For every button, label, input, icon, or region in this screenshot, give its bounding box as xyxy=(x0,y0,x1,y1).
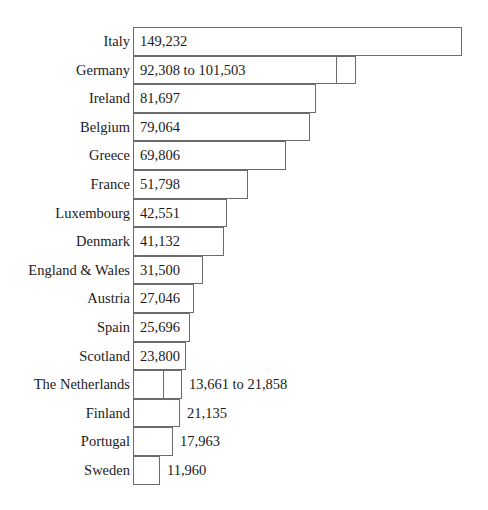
chart-row: Scotland23,800 xyxy=(0,342,488,371)
bar-value-label: 79,064 xyxy=(140,113,180,142)
bar-value-label: 42,551 xyxy=(140,199,180,228)
bar-chart: Italy149,232Germany92,308 to 101,503Irel… xyxy=(0,0,488,510)
category-label: Germany xyxy=(76,56,130,85)
bar-value-label: 51,798 xyxy=(140,170,180,199)
category-label: Greece xyxy=(89,141,130,170)
bar-value-label: 69,806 xyxy=(140,141,180,170)
bar-rect xyxy=(133,399,180,428)
chart-row: France51,798 xyxy=(0,170,488,199)
bar-rect xyxy=(133,456,160,485)
chart-row: Italy149,232 xyxy=(0,27,488,56)
category-label: Spain xyxy=(97,313,130,342)
bar-value-label: 149,232 xyxy=(140,27,187,56)
bar-value-label: 17,963 xyxy=(180,427,220,456)
chart-row: Greece69,806 xyxy=(0,141,488,170)
category-label: Sweden xyxy=(84,456,130,485)
category-label: Finland xyxy=(86,399,130,428)
category-label: France xyxy=(91,170,130,199)
category-label: Denmark xyxy=(76,227,130,256)
category-label: Scotland xyxy=(79,342,130,371)
bar-range-extension xyxy=(337,56,356,85)
chart-rows-container: Italy149,232Germany92,308 to 101,503Irel… xyxy=(0,27,488,485)
bar-value-label: 25,696 xyxy=(140,313,180,342)
category-label: The Netherlands xyxy=(34,370,130,399)
bar-value-label: 21,135 xyxy=(187,399,227,428)
chart-row: Finland21,135 xyxy=(0,399,488,428)
bar-value-label: 11,960 xyxy=(167,456,206,485)
bar-value-label: 81,697 xyxy=(140,84,180,113)
chart-row: Spain25,696 xyxy=(0,313,488,342)
category-label: Luxembourg xyxy=(55,199,130,228)
category-label: Belgium xyxy=(80,113,130,142)
bar-value-label: 41,132 xyxy=(140,227,180,256)
chart-row: Sweden11,960 xyxy=(0,456,488,485)
bar-value-label: 23,800 xyxy=(140,342,180,371)
category-label: Portugal xyxy=(81,427,130,456)
bar-value-label: 13,661 to 21,858 xyxy=(189,370,287,399)
bar-value-label: 31,500 xyxy=(140,256,180,285)
chart-row: Germany92,308 to 101,503 xyxy=(0,56,488,85)
bar-group xyxy=(133,456,160,485)
category-label: Ireland xyxy=(89,84,130,113)
bar-group xyxy=(133,399,180,428)
chart-row: The Netherlands13,661 to 21,858 xyxy=(0,370,488,399)
chart-row: Ireland81,697 xyxy=(0,84,488,113)
chart-row: Belgium79,064 xyxy=(0,113,488,142)
bar-rect xyxy=(133,370,164,399)
chart-row: England & Wales31,500 xyxy=(0,256,488,285)
bar-value-label: 27,046 xyxy=(140,284,180,313)
chart-row: Austria27,046 xyxy=(0,284,488,313)
category-label: England & Wales xyxy=(28,256,130,285)
category-label: Italy xyxy=(103,27,130,56)
bar-range-extension xyxy=(164,370,182,399)
category-label: Austria xyxy=(87,284,130,313)
chart-row: Denmark41,132 xyxy=(0,227,488,256)
bar-value-label: 92,308 to 101,503 xyxy=(140,56,246,85)
bar-rect xyxy=(133,427,173,456)
chart-row: Portugal17,963 xyxy=(0,427,488,456)
chart-row: Luxembourg42,551 xyxy=(0,199,488,228)
bar-group xyxy=(133,370,182,399)
bar-group xyxy=(133,427,173,456)
